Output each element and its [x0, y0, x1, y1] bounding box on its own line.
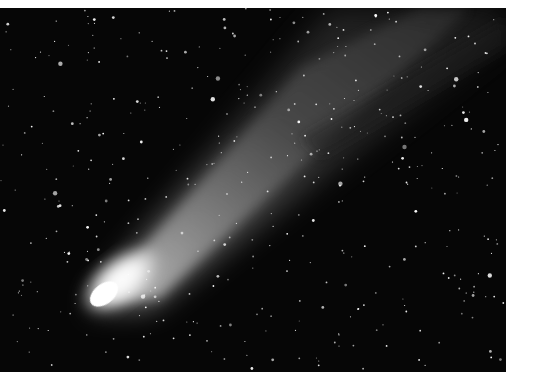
starfield — [0, 8, 506, 372]
comet-photograph — [0, 8, 506, 372]
